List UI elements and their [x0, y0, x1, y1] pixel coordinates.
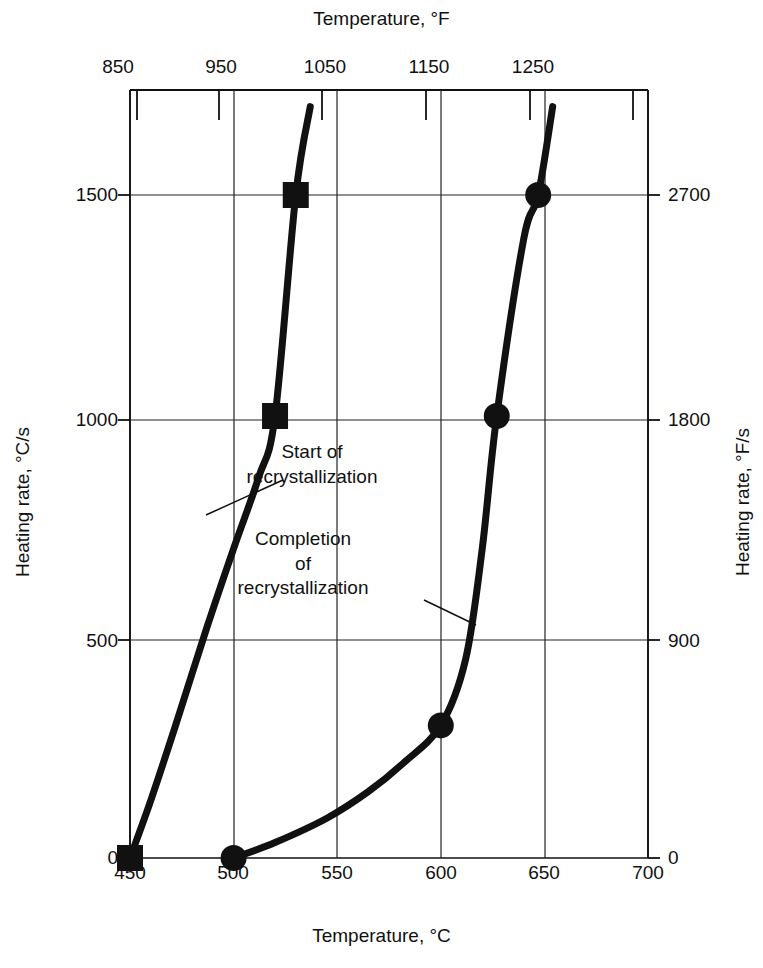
top-tick-label-1: 950	[176, 56, 266, 78]
annotation-completion-of-recrystallization: Completion of recrystallization	[198, 527, 408, 601]
bottom-tick-label-4: 650	[499, 862, 589, 884]
left-tick-label-1000: 1000	[38, 409, 118, 431]
top-tick-label-2: 1050	[280, 56, 370, 78]
bottom-tick-label-2: 550	[292, 862, 382, 884]
leader-line-completion	[424, 600, 476, 625]
right-axis-title: Heating rate, °F/s	[732, 337, 754, 667]
right-tick-label-2700: 2700	[668, 184, 748, 206]
bottom-tick-label-3: 600	[396, 862, 486, 884]
left-tick-label-0: 0	[38, 847, 118, 869]
right-axis-ticks	[648, 195, 660, 858]
top-tick-label-4: 1250	[488, 56, 578, 78]
right-tick-label-900: 900	[668, 630, 748, 652]
left-axis-ticks	[118, 195, 130, 858]
right-tick-label-1800: 1800	[668, 409, 748, 431]
top-tick-label-3: 1150	[384, 56, 474, 78]
chart-figure: Temperature, °F Temperature, °C Heating …	[0, 0, 763, 968]
annotation-start-of-recrystallization: Start of recrystallization	[212, 440, 412, 489]
bottom-tick-label-1: 500	[188, 862, 278, 884]
left-tick-label-500: 500	[38, 630, 118, 652]
bottom-axis-title: Temperature, °C	[0, 925, 763, 947]
left-axis-title: Heating rate, °C/s	[12, 337, 34, 667]
top-axis-title: Temperature, °F	[0, 8, 763, 30]
right-tick-label-0: 0	[668, 847, 748, 869]
top-axis-major-ticks	[118, 90, 201, 858]
top-tick-label-0: 850	[73, 56, 163, 78]
top-axis-ticks	[137, 90, 633, 120]
left-tick-label-1500: 1500	[38, 184, 118, 206]
